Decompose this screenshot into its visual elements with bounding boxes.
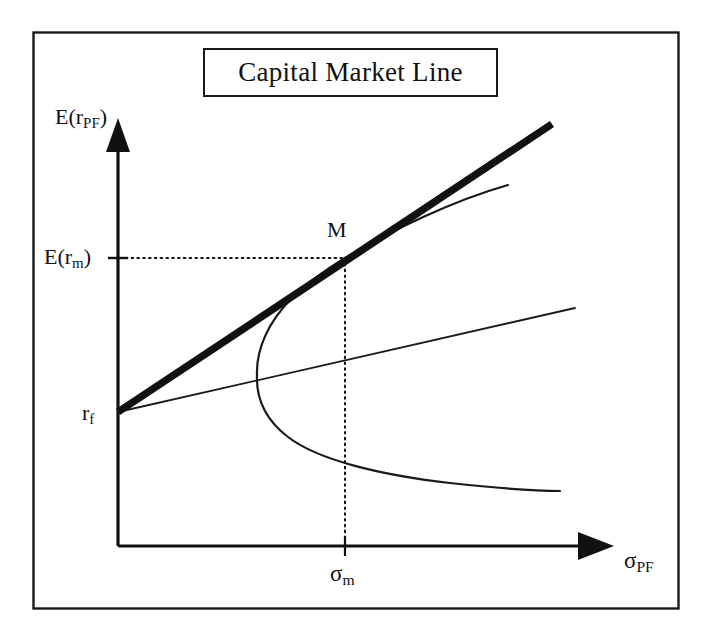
y-axis-label-close: ) xyxy=(100,104,107,129)
market-sigma-subscript: m xyxy=(342,571,354,588)
figure-border xyxy=(34,33,679,609)
market-return-close: ) xyxy=(84,244,91,269)
market-sigma-label: σm xyxy=(330,562,355,588)
market-return-subscript: m xyxy=(72,255,84,271)
market-portfolio-label: M xyxy=(327,219,347,241)
capital-market-line-figure: Capital Market Line E(rPF) E(rm) rf M σP… xyxy=(0,0,712,636)
risk-free-rate-subscript: f xyxy=(89,411,94,427)
y-axis-label-main: E(r xyxy=(55,104,83,129)
y-axis-label-subscript: PF xyxy=(83,115,100,131)
page-title: Capital Market Line xyxy=(238,57,463,88)
y-axis-label: E(rPF) xyxy=(55,106,107,131)
market-return-label: E(rm) xyxy=(44,246,91,271)
market-sigma-main: σ xyxy=(330,561,342,586)
x-axis-label-main: σ xyxy=(624,548,636,573)
market-return-main: E(r xyxy=(44,244,72,269)
title-box: Capital Market Line xyxy=(203,48,498,97)
x-axis-label-subscript: PF xyxy=(636,558,653,575)
x-axis-label: σPF xyxy=(624,549,654,575)
risk-free-rate-label: rf xyxy=(82,402,94,427)
